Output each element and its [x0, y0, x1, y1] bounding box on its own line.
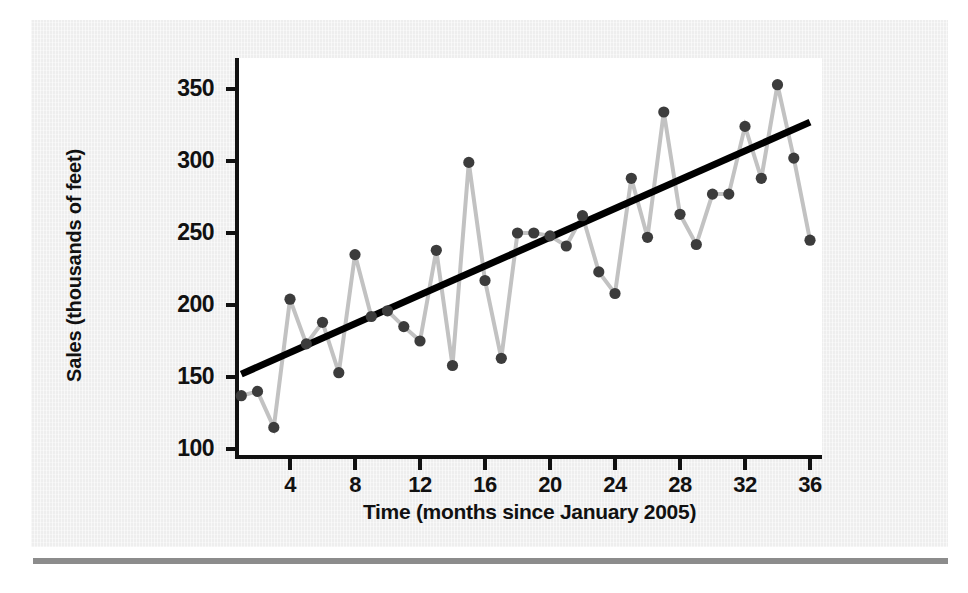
data-point	[561, 240, 572, 251]
trend-line	[241, 122, 810, 374]
data-point	[756, 173, 767, 184]
data-point	[658, 106, 669, 117]
data-point	[317, 317, 328, 328]
x-tick-label-16: 16	[460, 472, 510, 498]
page-bottom-rule	[33, 558, 948, 564]
data-point	[804, 235, 815, 246]
data-point	[414, 335, 425, 346]
data-point	[496, 353, 507, 364]
data-point	[479, 275, 490, 286]
data-point	[333, 367, 344, 378]
y-tick-label-350: 350	[154, 75, 214, 102]
data-point	[252, 386, 263, 397]
data-point	[398, 321, 409, 332]
data-point	[609, 288, 620, 299]
x-tick-label-4: 4	[265, 472, 315, 498]
data-point-markers	[236, 79, 816, 433]
data-point	[642, 232, 653, 243]
data-point	[577, 210, 588, 221]
data-point	[739, 121, 750, 132]
y-axis-title: Sales (thousands of feet)	[63, 96, 86, 436]
y-tick-label-300: 300	[154, 147, 214, 174]
data-point	[268, 422, 279, 433]
data-point	[593, 266, 604, 277]
x-tick-label-20: 20	[525, 472, 575, 498]
x-tick-label-8: 8	[330, 472, 380, 498]
figure-page: 350 300 250 200 150 100 4 8 12 16 20 24 …	[0, 0, 968, 593]
data-point	[626, 173, 637, 184]
data-point	[382, 305, 393, 316]
data-point	[284, 294, 295, 305]
y-tick-label-200: 200	[154, 291, 214, 318]
x-tick-label-28: 28	[655, 472, 705, 498]
data-point	[772, 79, 783, 90]
data-point	[349, 249, 360, 260]
x-tick-label-12: 12	[395, 472, 445, 498]
data-point	[723, 189, 734, 200]
data-point	[674, 209, 685, 220]
y-tick-label-100: 100	[154, 435, 214, 462]
data-point	[512, 227, 523, 238]
data-point	[431, 245, 442, 256]
x-axis-title: Time (months since January 2005)	[237, 500, 822, 524]
data-point	[236, 390, 247, 401]
data-point	[788, 153, 799, 164]
x-tick-label-32: 32	[720, 472, 770, 498]
data-point	[691, 239, 702, 250]
data-point	[301, 338, 312, 349]
data-point	[366, 311, 377, 322]
y-tick-label-250: 250	[154, 219, 214, 246]
x-tick-label-36: 36	[785, 472, 835, 498]
data-point	[447, 360, 458, 371]
data-point	[463, 157, 474, 168]
data-point	[544, 230, 555, 241]
y-tick-label-150: 150	[154, 363, 214, 390]
data-point	[707, 189, 718, 200]
x-tick-label-24: 24	[590, 472, 640, 498]
data-series-line	[241, 85, 810, 428]
data-point	[528, 227, 539, 238]
